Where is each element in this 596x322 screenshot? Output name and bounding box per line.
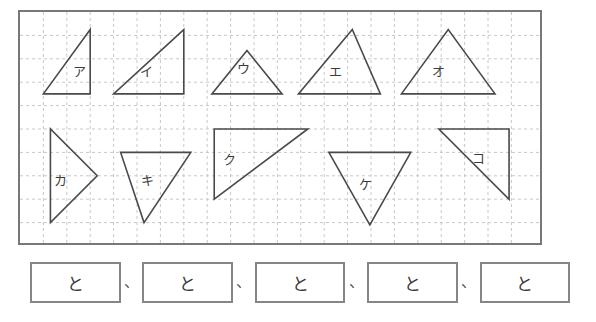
triangle-e-label: エ — [329, 64, 342, 79]
worksheet-root: アイウエオカキクケコ と、と、と、と、と — [0, 0, 596, 322]
grid-canvas: アイウエオカキクケコ — [20, 12, 540, 243]
grid-panel: アイウエオカキクケコ — [18, 10, 542, 245]
answer-separator: 、 — [345, 262, 367, 303]
answer-box-3-value: と — [292, 270, 309, 295]
triangle-a-label: ア — [73, 64, 86, 79]
answer-separator: 、 — [458, 262, 480, 303]
triangle-ka-label: カ — [54, 173, 67, 188]
answer-separator: 、 — [121, 262, 143, 303]
answer-box-5-value: と — [516, 270, 533, 295]
triangle-e — [298, 30, 380, 94]
answer-box-4-value: と — [404, 270, 421, 295]
triangle-o-label: オ — [432, 64, 445, 79]
answer-separator: 、 — [233, 262, 255, 303]
triangle-i — [114, 30, 184, 94]
answer-box-1-value: と — [67, 270, 84, 295]
triangle-o — [401, 30, 495, 94]
answer-box-4[interactable]: と — [367, 262, 458, 303]
answer-box-1[interactable]: と — [30, 262, 121, 303]
answer-box-5[interactable]: と — [480, 262, 571, 303]
triangle-ki-label: キ — [141, 173, 154, 188]
answer-box-3[interactable]: と — [255, 262, 346, 303]
triangle-ke-label: ケ — [359, 177, 372, 192]
answer-row: と、と、と、と、と — [30, 258, 570, 306]
triangle-u-label: ウ — [237, 61, 250, 76]
answer-box-2[interactable]: と — [142, 262, 233, 303]
triangle-ko-label: コ — [472, 151, 485, 166]
triangle-i-label: イ — [140, 64, 153, 79]
answer-box-2-value: と — [179, 270, 196, 295]
grid-lines — [20, 12, 540, 243]
triangle-ku-label: ク — [223, 152, 236, 167]
triangle-ki — [121, 152, 191, 222]
